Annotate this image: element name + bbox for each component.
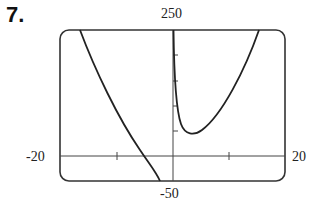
x-max-label: 20	[292, 150, 306, 164]
x-min-label: -20	[26, 150, 45, 164]
y-min-label: -50	[160, 187, 179, 201]
curve-right-branch	[174, 30, 260, 134]
graph	[0, 0, 322, 210]
y-max-label: 250	[161, 7, 182, 21]
curve-left-branch	[80, 30, 160, 181]
